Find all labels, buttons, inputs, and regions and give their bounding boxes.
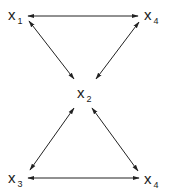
node-x2: x2 bbox=[77, 85, 92, 103]
node-x3: x3 bbox=[8, 170, 23, 188]
node-subscript: 3 bbox=[18, 179, 23, 189]
node-var: x bbox=[8, 169, 16, 186]
node-var: x bbox=[77, 84, 85, 101]
edge-x2-x4-bottom bbox=[92, 108, 138, 171]
node-x4-bottom: x4 bbox=[144, 171, 159, 189]
edge-x2-x3 bbox=[30, 108, 74, 170]
node-subscript: 4 bbox=[154, 180, 159, 190]
node-subscript: 4 bbox=[154, 16, 159, 26]
node-var: x bbox=[144, 170, 152, 187]
node-var: x bbox=[144, 6, 152, 23]
node-x1: x1 bbox=[8, 7, 23, 25]
node-subscript: 2 bbox=[87, 94, 92, 104]
node-var: x bbox=[8, 6, 16, 23]
node-subscript: 1 bbox=[18, 16, 23, 26]
node-x4-top: x4 bbox=[144, 7, 159, 25]
edge-x1-x2 bbox=[29, 21, 74, 79]
edge-x4-x2 bbox=[96, 22, 139, 79]
